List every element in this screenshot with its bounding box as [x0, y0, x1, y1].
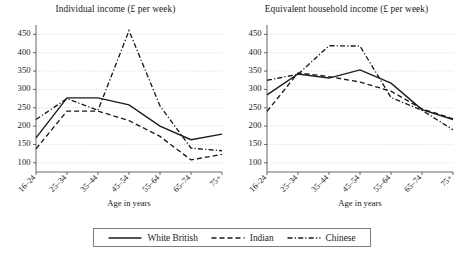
x-axis-tick-label: 55–64 [141, 173, 162, 194]
legend-entry-white-british: White British [108, 233, 197, 243]
x-axis-tick-label: 25–34 [48, 173, 69, 194]
x-axis-tick-label: 16–24 [248, 173, 269, 194]
y-axis-tick-label: 100 [18, 157, 31, 167]
y-axis-tick-label: 400 [249, 47, 262, 57]
x-axis-tick-label: 75+ [208, 173, 224, 189]
y-axis-tick-label: 200 [249, 120, 262, 130]
series-line-chinese [267, 46, 453, 130]
y-axis-tick-label: 200 [18, 120, 31, 130]
x-axis-tick-label: 45–54 [341, 173, 362, 194]
legend-label-indian: Indian [250, 233, 274, 243]
x-axis-title: Age in years [338, 198, 382, 208]
x-axis-tick-label: 16–24 [17, 173, 38, 194]
chart-legend: White British Indian Chinese [93, 228, 371, 247]
chart-figure: Individual income (£ per week) 100150200… [0, 0, 462, 257]
series-line-indian [36, 111, 222, 160]
chart-panel-individual-income: Individual income (£ per week) 100150200… [0, 0, 231, 212]
x-axis-tick-label: 35–44 [310, 173, 331, 194]
x-axis-tick-label: 75+ [439, 173, 455, 189]
legend-swatch-solid-icon [108, 234, 142, 242]
legend-entry-chinese: Chinese [287, 233, 356, 243]
legend-label-chinese: Chinese [326, 233, 356, 243]
x-axis-tick-label: 65–74 [403, 173, 424, 194]
y-axis-tick-label: 350 [18, 65, 31, 75]
legend-swatch-dashdot-icon [287, 234, 321, 242]
y-axis-tick-label: 400 [18, 47, 31, 57]
legend-swatch-dashed-icon [211, 234, 245, 242]
legend-entry-indian: Indian [211, 233, 274, 243]
plot-area-left: 10015020025030035040045016–2425–3435–444… [0, 0, 231, 212]
x-axis-tick-label: 45–54 [110, 173, 131, 194]
x-axis-tick-label: 65–74 [172, 173, 193, 194]
y-axis-tick-label: 250 [18, 102, 31, 112]
y-axis-tick-label: 150 [18, 138, 31, 148]
y-axis-tick-label: 150 [249, 138, 262, 148]
y-axis-tick-label: 350 [249, 65, 262, 75]
y-axis-tick-label: 300 [18, 83, 31, 93]
x-axis-title: Age in years [107, 198, 151, 208]
legend-label-white-british: White British [147, 233, 197, 243]
y-axis-tick-label: 450 [18, 28, 31, 38]
plot-area-right: 10015020025030035040045016–2425–3435–444… [231, 0, 462, 212]
y-axis-tick-label: 250 [249, 102, 262, 112]
x-axis-tick-label: 25–34 [279, 173, 300, 194]
x-axis-tick-label: 35–44 [79, 173, 100, 194]
y-axis-tick-label: 300 [249, 83, 262, 93]
y-axis-tick-label: 100 [249, 157, 262, 167]
chart-panel-equivalent-household-income: Equivalent household income (£ per week)… [231, 0, 462, 212]
series-line-chinese [36, 31, 222, 151]
x-axis-tick-label: 55–64 [372, 173, 393, 194]
series-line-white-british [36, 98, 222, 140]
y-axis-tick-label: 450 [249, 28, 262, 38]
